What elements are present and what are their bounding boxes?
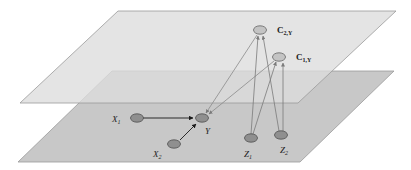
node-x2 (168, 140, 181, 148)
node-y (196, 114, 209, 122)
node-x1 (131, 114, 144, 122)
diagram-canvas: C2,Y C1,Y X1 Y X2 Z1 Z2 (0, 0, 411, 170)
node-z1 (245, 134, 258, 142)
node-c1y (273, 53, 286, 61)
node-z2 (275, 131, 288, 139)
node-c2y (254, 26, 267, 34)
